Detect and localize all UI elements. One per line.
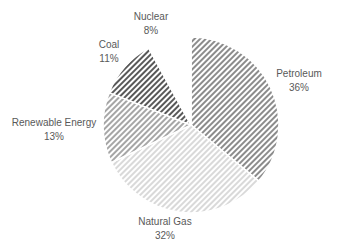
pie-chart: Petroleum 36% Natural Gas 32% Renewable …	[0, 0, 339, 250]
label-renewable-name: Renewable Energy	[12, 117, 97, 128]
label-petroleum-value: 36%	[289, 82, 309, 93]
label-petroleum-name: Petroleum	[276, 68, 322, 79]
label-nuclear-name: Nuclear	[134, 11, 169, 22]
label-natural-gas-name: Natural Gas	[138, 216, 191, 227]
label-renewable-value: 13%	[44, 131, 64, 142]
label-natural-gas-value: 32%	[155, 230, 175, 241]
pie-slices	[103, 37, 279, 213]
label-nuclear-value: 8%	[144, 25, 159, 36]
label-coal-name: Coal	[99, 39, 120, 50]
label-coal-value: 11%	[99, 53, 118, 64]
